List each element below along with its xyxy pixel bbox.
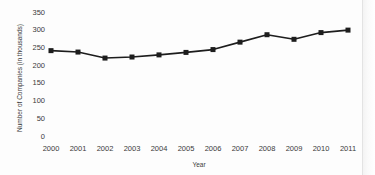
y-axis-tick-labels: 350 300 250 200 150 100 50 0 — [32, 8, 45, 141]
data-point-marker — [265, 32, 270, 37]
data-point-marker — [76, 50, 81, 55]
x-tick-label-2001: 2001 — [70, 144, 87, 153]
data-point-marker — [319, 30, 324, 35]
y-axis-title: Number of Companies (in thousands) — [16, 24, 24, 132]
x-tick-label-2003: 2003 — [124, 144, 141, 153]
data-series-line — [51, 30, 348, 58]
x-tick-label-2002: 2002 — [97, 144, 114, 153]
data-point-marker — [49, 48, 54, 53]
y-tick-label-300: 300 — [32, 25, 45, 34]
y-tick-label-200: 200 — [32, 61, 45, 70]
x-tick-label-2009: 2009 — [286, 144, 303, 153]
y-tick-label-350: 350 — [32, 8, 45, 17]
y-tick-label-50: 50 — [37, 114, 45, 123]
data-point-marker — [292, 37, 297, 42]
x-tick-label-2006: 2006 — [205, 144, 222, 153]
data-point-marker — [157, 52, 162, 57]
y-tick-label-100: 100 — [32, 96, 45, 105]
x-tick-label-2010: 2010 — [313, 144, 330, 153]
x-tick-label-2011: 2011 — [340, 144, 356, 153]
x-tick-label-2008: 2008 — [259, 144, 276, 153]
data-point-marker — [103, 56, 108, 61]
data-point-marker — [238, 40, 243, 45]
x-tick-label-2007: 2007 — [232, 144, 249, 153]
line-chart-plot: 350 300 250 200 150 100 50 0 Number of C… — [0, 0, 375, 175]
y-tick-label-150: 150 — [32, 78, 45, 87]
x-tick-label-2004: 2004 — [151, 144, 168, 153]
chart-figure: 350 300 250 200 150 100 50 0 Number of C… — [0, 0, 375, 175]
y-tick-label-250: 250 — [32, 43, 45, 52]
data-point-marker — [130, 55, 135, 60]
data-point-marker — [211, 47, 216, 52]
x-axis-title: Year — [192, 161, 206, 168]
x-tick-label-2005: 2005 — [178, 144, 195, 153]
y-tick-label-0: 0 — [41, 132, 45, 141]
x-axis-tick-labels: 2000 2001 2002 2003 2004 2005 2006 2007 … — [43, 144, 356, 153]
data-point-marker — [184, 50, 189, 55]
data-point-marker — [346, 28, 351, 33]
x-tick-label-2000: 2000 — [43, 144, 60, 153]
